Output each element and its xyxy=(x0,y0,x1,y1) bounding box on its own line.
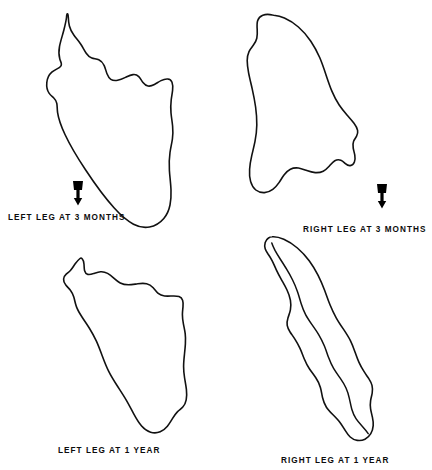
caption-right-leg-3-months: RIGHT LEG AT 3 MONTHS xyxy=(303,226,426,234)
outline-right-leg-1-year xyxy=(265,237,374,441)
outline-drawing-surface xyxy=(0,0,432,470)
caption-right-leg-1-year: RIGHT LEG AT 1 YEAR xyxy=(281,457,390,465)
outline-left-leg-1-year xyxy=(64,258,187,433)
caption-left-leg-3-months: LEFT LEG AT 3 MONTHS xyxy=(8,214,125,222)
inner-boundary-right-leg-1-year xyxy=(272,243,368,434)
down-arrow-icon-right xyxy=(377,184,387,209)
down-arrow-icon-left xyxy=(73,181,83,206)
caption-left-leg-1-year: LEFT LEG AT 1 YEAR xyxy=(58,447,160,455)
outline-left-leg-3-months xyxy=(47,14,173,227)
figure-canvas: LEFT LEG AT 3 MONTHS RIGHT LEG AT 3 MONT… xyxy=(0,0,432,470)
outline-right-leg-3-months xyxy=(247,14,358,192)
